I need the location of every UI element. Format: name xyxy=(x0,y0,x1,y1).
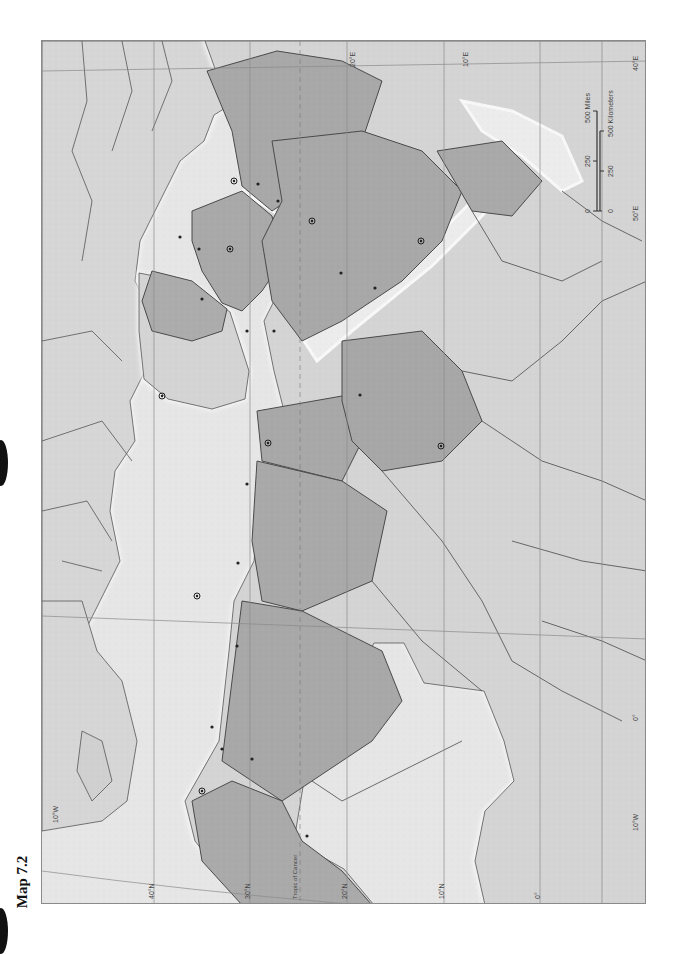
map-frame: 0 250 500 Miles 0 250 500 Kilometers 40°… xyxy=(41,40,646,904)
scale-miles-0: 0 xyxy=(584,209,591,213)
lat-label-30n: 30°N xyxy=(244,883,251,899)
lon-label-10w-right: 10°W xyxy=(632,814,639,831)
binder-hole-top xyxy=(0,440,8,486)
lat-label-0: 0° xyxy=(534,892,541,899)
tropic-of-cancer-label: Tropic of Cancer xyxy=(292,855,298,899)
city-marker xyxy=(256,182,259,185)
lat-label-10n: 10°N xyxy=(438,883,445,899)
scale-km-500: 500 Kilometers xyxy=(607,90,614,137)
lon-label-10e: 10°E xyxy=(462,52,469,67)
relief-texture xyxy=(42,41,646,904)
lon-label-0-right: 0° xyxy=(632,714,639,721)
lon-label-10w-left: 10°W xyxy=(52,806,59,823)
scale-km-0: 0 xyxy=(607,209,614,213)
lon-label-20e: 20°E xyxy=(349,52,356,67)
scale-km-250: 250 xyxy=(607,165,614,177)
scale-miles-500: 500 Miles xyxy=(584,93,591,123)
map-canvas: 0 250 500 Miles 0 250 500 Kilometers xyxy=(42,41,646,904)
lat-label-40n: 40°N xyxy=(148,883,155,899)
lon-label-50e: 50°E xyxy=(632,206,639,221)
lat-label-20n: 20°N xyxy=(341,883,348,899)
lon-label-40e: 40°E xyxy=(632,56,639,71)
binder-hole-bottom xyxy=(0,908,8,954)
map-title-text: Map 7.2 xyxy=(14,856,31,909)
map-title: Map 7.2 xyxy=(4,852,40,912)
scale-miles-250: 250 xyxy=(584,155,591,167)
